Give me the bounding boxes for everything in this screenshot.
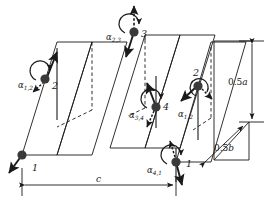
plane-group-left	[22, 38, 127, 155]
node-site-4-middle	[151, 102, 160, 111]
site-label-1-left: 1	[32, 162, 38, 173]
node-site-2-right	[193, 81, 202, 90]
magnetic-structure-figure: 1 2 3 4 2 1 α1,2 α2,3 α3,4 α1,2 α4,1 0.5…	[0, 0, 271, 200]
site-label-3-middle: 3	[141, 28, 147, 39]
dimension-label-half-b: 0.5b	[214, 143, 234, 153]
site-label-1-right: 1	[186, 158, 192, 169]
angle-label-alpha-4-1-right: α4,1	[147, 165, 162, 176]
plane-group-middle	[110, 35, 215, 148]
plane-left-dashed-diag	[57, 110, 92, 127]
node-site-2-left	[40, 74, 49, 83]
plane-left-back	[68, 38, 103, 148]
node-site-1-left	[17, 150, 26, 159]
node-site-1-right	[171, 157, 180, 166]
dimension-label-half-a: 0.5a	[228, 77, 248, 87]
plane-right-dashed-diag	[193, 118, 211, 130]
spin-site-1-left	[9, 150, 27, 173]
node-site-3-middle	[129, 27, 138, 36]
angle-label-alpha-1-2-left: α1,2	[18, 80, 33, 91]
spin-site-2-right	[181, 79, 212, 101]
dimension-label-c: c	[96, 174, 101, 184]
spin-site-4-middle	[141, 83, 161, 127]
site-label-4-middle: 4	[162, 101, 169, 112]
spin-site-3-middle	[119, 6, 139, 57]
site-label-2-left: 2	[51, 80, 58, 91]
site-label-2-right: 2	[192, 67, 199, 78]
angle-label-alpha-2-3-middle: α2,3	[106, 32, 121, 43]
